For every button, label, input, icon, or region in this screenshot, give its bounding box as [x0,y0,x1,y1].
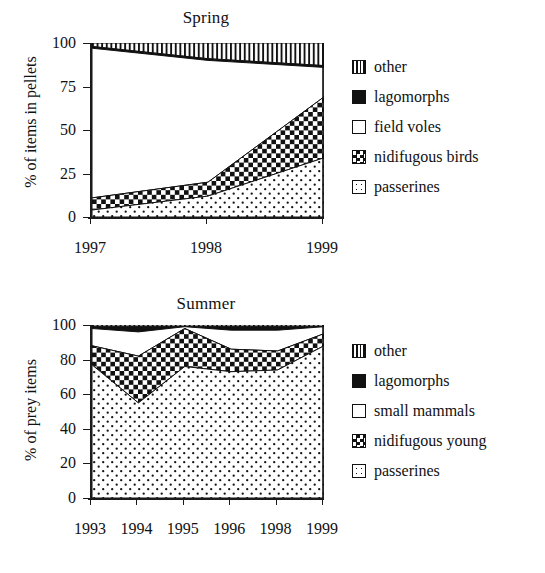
ytick-label-spring-2: 50 [34,122,76,138]
xtick-summer-1996 [229,498,230,505]
legend-label-passerines: passerines [374,179,440,195]
plot-area-spring [90,43,324,217]
legend-item-passerines: passerines [352,456,486,486]
swatch-other-icon [352,60,366,74]
legend-summer: other lagomorphs small mammals nidifugou… [352,336,486,486]
swatch-lagomorphs-icon [352,90,366,104]
ytick-label-summer-0: 100 [34,317,76,333]
legend-item-lagomorphs: lagomorphs [352,82,478,112]
legend-item-small-mammals: small mammals [352,396,486,426]
ytick-label-spring-1: 75 [34,79,76,95]
legend-item-passerines: passerines [352,172,478,202]
swatch-nidifugous-young-icon [352,434,366,448]
ytick-label-summer-1: 80 [34,352,76,368]
xtick-summer-1994 [136,498,137,505]
xtick-label-spring-2: 1999 [292,240,352,256]
legend-label-field-voles: field voles [374,119,441,135]
xtick-spring-1999 [322,217,323,224]
legend-label-other: other [374,343,407,359]
legend-label-lagomorphs: lagomorphs [374,373,450,389]
ytick-summer-40 [83,429,90,430]
ytick-summer-20 [83,463,90,464]
x-axis-summer [88,498,324,500]
panel-spring: Spring % of items in pellets [0,0,545,286]
ytick-spring-100 [83,43,90,44]
xtick-summer-1993 [90,498,91,505]
legend-label-lagomorphs: lagomorphs [374,89,450,105]
legend-label-other: other [374,59,407,75]
xtick-label-spring-1: 1998 [176,240,236,256]
y-axis-title-summer: % of prey items [22,320,40,500]
ytick-summer-80 [83,360,90,361]
legend-label-small-mammals: small mammals [374,403,475,419]
legend-item-nidifugous-young: nidifugous young [352,426,486,456]
xtick-summer-1998 [276,498,277,505]
ytick-spring-50 [83,130,90,131]
ytick-summer-100 [83,325,90,326]
swatch-passerines-icon [352,180,366,194]
swatch-other-icon [352,344,366,358]
page-title-summer: Summer [90,294,322,314]
swatch-lagomorphs-icon [352,374,366,388]
ytick-label-summer-5: 0 [34,490,76,506]
spring-area-chart [92,43,324,217]
figure-root: Spring % of items in pellets [0,0,545,573]
ytick-spring-25 [83,174,90,175]
summer-area-chart [92,325,324,498]
swatch-small-mammals-icon [352,404,366,418]
ytick-label-spring-0: 100 [34,35,76,51]
page-title-spring: Spring [90,8,322,28]
legend-label-passerines: passerines [374,463,440,479]
legend-label-nidifugous-young: nidifugous young [374,433,486,449]
legend-item-nidifugous-birds: nidifugous birds [352,142,478,172]
xtick-spring-1998 [206,217,207,224]
legend-spring: other lagomorphs field voles nidifugous … [352,52,478,202]
ytick-label-spring-4: 0 [34,209,76,225]
ytick-label-summer-3: 40 [34,421,76,437]
legend-item-lagomorphs: lagomorphs [352,366,486,396]
xtick-spring-1997 [90,217,91,224]
swatch-nidifugous-birds-icon [352,150,366,164]
ytick-label-summer-2: 60 [34,386,76,402]
swatch-passerines-icon [352,464,366,478]
ytick-label-spring-3: 25 [34,166,76,182]
ytick-label-summer-4: 20 [34,455,76,471]
plot-area-summer [90,325,324,498]
xtick-label-spring-0: 1997 [60,240,120,256]
xtick-summer-1995 [183,498,184,505]
ytick-spring-75 [83,87,90,88]
xtick-label-summer-5: 1999 [292,521,352,537]
ytick-summer-60 [83,394,90,395]
swatch-field-voles-icon [352,120,366,134]
legend-label-nidifugous-birds: nidifugous birds [374,149,478,165]
xtick-summer-1999 [322,498,323,505]
legend-item-field-voles: field voles [352,112,478,142]
legend-item-other: other [352,336,486,366]
legend-item-other: other [352,52,478,82]
